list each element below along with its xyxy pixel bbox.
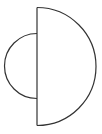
semicircles-diagram — [0, 0, 102, 134]
large-semicircle — [37, 8, 96, 126]
small-semicircle — [5, 34, 38, 99]
